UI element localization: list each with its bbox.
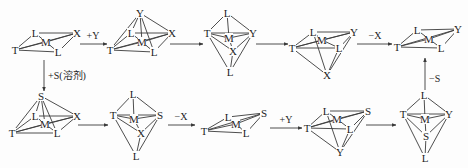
atom-l: L [54, 127, 61, 139]
atom-l: L [130, 88, 137, 100]
complex-atoms: TLMSL [200, 107, 268, 139]
atom-s: S [261, 107, 267, 119]
complex-atoms: STLMXL [8, 90, 81, 139]
bond-line [292, 48, 327, 75]
atom-t: T [110, 109, 117, 121]
complex-trigonal-bipyramidal [113, 94, 160, 156]
atom-t: T [12, 44, 19, 56]
atom-t: T [204, 27, 211, 39]
atom-x: X [229, 45, 237, 57]
atom-l: L [227, 66, 234, 78]
atom-m: M [420, 113, 430, 125]
arrow-label: +Y [280, 114, 293, 125]
atom-t: T [304, 122, 311, 134]
mechanism-canvas: TLMXLYTLMXLLTMYXLLTMYLXTLMYLSTLMXLLTMSXL… [0, 0, 468, 168]
atom-m: M [224, 32, 234, 44]
atom-m: M [424, 33, 434, 45]
atom-x: X [323, 69, 331, 81]
atom-x: X [73, 110, 81, 122]
atom-m: M [332, 113, 342, 125]
atom-l: L [414, 24, 421, 36]
atom-l: L [128, 27, 135, 39]
bond-line [307, 128, 350, 129]
atoms-layer: TLMXLYTLMXLLTMYXLLTMYLXTLMYLSTLMXLLTMSXL… [8, 7, 462, 164]
atom-l: L [55, 46, 62, 58]
atom-l: L [133, 150, 140, 162]
atom-l: L [422, 152, 429, 164]
complex-atoms: LTMYSL [399, 89, 453, 164]
atom-y: Y [350, 26, 358, 38]
atom-m: M [41, 36, 51, 48]
atom-x: X [168, 27, 176, 39]
atom-l: L [323, 105, 330, 117]
atom-m: M [317, 34, 327, 46]
atom-l: L [151, 46, 158, 58]
atom-y: Y [136, 7, 144, 19]
atom-l: L [347, 123, 354, 135]
bond-line [133, 94, 160, 115]
bond-line [397, 47, 441, 48]
bond-line [15, 50, 58, 52]
bond-line [110, 50, 154, 52]
atom-m: M [129, 113, 139, 125]
atom-s: S [38, 90, 44, 102]
atom-m: M [40, 118, 50, 130]
arrow-label: +Y [87, 30, 100, 41]
bond-line [417, 29, 458, 30]
atom-t: T [394, 41, 401, 53]
atom-y: Y [336, 146, 344, 158]
complex-atoms: TLMXL [11, 27, 81, 58]
atom-y: Y [249, 27, 257, 39]
atom-l: L [224, 7, 231, 19]
atom-t: T [107, 44, 114, 56]
atom-l: L [243, 127, 250, 139]
atom-l: L [32, 27, 39, 39]
atom-l: L [310, 26, 317, 38]
complex-trigonal-bipyramidal [403, 95, 449, 158]
bond-line [41, 96, 77, 116]
atom-s: S [157, 109, 163, 121]
atom-l: L [421, 89, 428, 101]
atom-y: Y [454, 23, 462, 35]
arrow-label: −S [429, 73, 440, 84]
bond-line [204, 131, 246, 133]
complex-atoms: TLMYL [393, 23, 462, 54]
atom-l: L [32, 110, 39, 122]
atom-m: M [137, 36, 147, 48]
arrow-label: −X [175, 111, 189, 122]
reaction-mechanism-diagram: TLMXLYTLMXLLTMYXLLTMYLXTLMYLSTLMXLLTMSXL… [0, 0, 468, 168]
atom-t: T [289, 42, 296, 54]
atom-t: T [201, 125, 208, 137]
atom-t: T [9, 127, 16, 139]
atom-y: Y [445, 108, 453, 120]
atom-x: X [73, 27, 81, 39]
atom-l: L [336, 42, 343, 54]
arrow-label: +S(溶剂) [48, 69, 86, 82]
atom-t: T [400, 108, 407, 120]
complex-atoms: LTMYXL [203, 7, 257, 78]
atom-s: S [423, 130, 429, 142]
atom-m: M [231, 118, 241, 130]
atom-l: L [438, 42, 445, 54]
atom-s: S [365, 105, 371, 117]
atom-x: X [137, 127, 145, 139]
arrow-label: −X [369, 30, 383, 41]
